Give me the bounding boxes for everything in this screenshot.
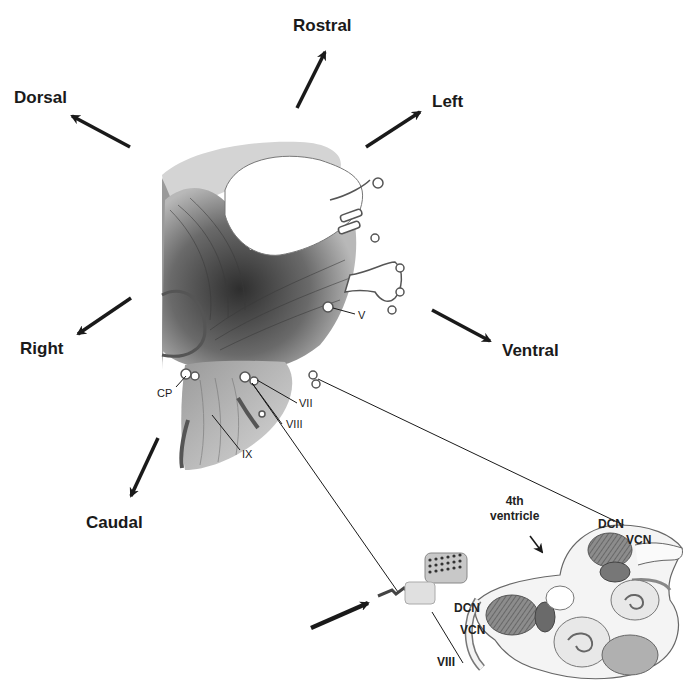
fourth-ventricle-label: 4th ventricle xyxy=(490,494,539,524)
hair-cell-illustration xyxy=(378,553,467,604)
brainstem-diagram xyxy=(0,0,698,696)
fourth-ventricle-line1: 4th xyxy=(490,494,539,509)
viii-inset-label: VIII xyxy=(437,655,455,669)
rostral-label: Rostral xyxy=(293,16,352,36)
right-arrow xyxy=(78,298,131,334)
nerve-v-label: V xyxy=(358,309,365,321)
nerve-viii-label: VIII xyxy=(286,418,303,430)
cochlea-pointer-arrow xyxy=(311,603,368,628)
caudal-label: Caudal xyxy=(86,513,143,533)
left-arrow xyxy=(366,112,420,147)
left-label: Left xyxy=(432,92,463,112)
nerve-ix-label: IX xyxy=(242,448,252,460)
dcn-upper-label: DCN xyxy=(598,517,624,531)
vcn-upper-label: VCN xyxy=(626,533,651,547)
ventral-arrow xyxy=(432,310,490,341)
rostral-arrow xyxy=(297,52,325,108)
caudal-arrow xyxy=(131,438,158,496)
ventral-label: Ventral xyxy=(502,341,559,361)
cochlear-nucleus-inset xyxy=(469,525,683,679)
vcn-lower-label: VCN xyxy=(460,623,485,637)
dorsal-label: Dorsal xyxy=(14,88,67,108)
right-label: Right xyxy=(20,339,63,359)
cp-label: CP xyxy=(157,387,172,399)
nerve-vii-label: VII xyxy=(299,397,312,409)
dorsal-arrow xyxy=(72,116,130,147)
brainstem-illustration xyxy=(162,142,404,470)
fourth-ventricle-line2: ventricle xyxy=(490,509,539,524)
dcn-lower-label: DCN xyxy=(454,601,480,615)
